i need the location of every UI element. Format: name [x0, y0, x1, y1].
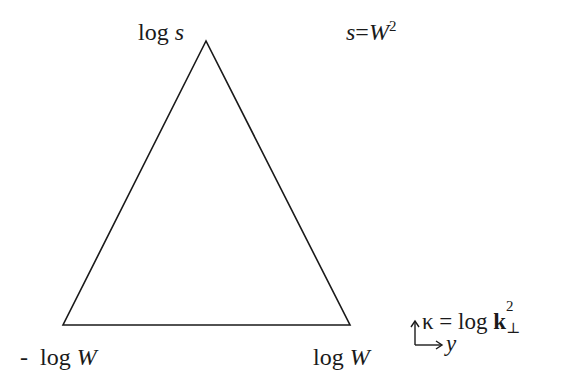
- kappa-axis-label: κ = log k2⊥: [422, 310, 518, 333]
- log-text: log: [313, 344, 344, 370]
- y-axis-label: y: [446, 332, 456, 355]
- log-text: log: [40, 344, 71, 370]
- k-vector: k: [493, 309, 506, 334]
- k-perp-subscript: ⊥: [506, 321, 520, 336]
- condition-exponent: 2: [389, 18, 397, 34]
- kappa-symbol: κ: [422, 309, 434, 334]
- base-right-label: log W: [313, 345, 370, 369]
- condition-rhs: W: [369, 19, 389, 45]
- phase-space-triangle: [63, 41, 350, 325]
- log-text: log: [138, 19, 169, 45]
- k-exponent: 2: [506, 299, 514, 314]
- minus-sign: -: [20, 344, 34, 370]
- condition-lhs: s: [346, 19, 355, 45]
- log-text: log: [458, 309, 493, 334]
- base-left-label: - log W: [20, 345, 97, 369]
- base-left-variable: W: [77, 344, 97, 370]
- condition-eq: =: [355, 19, 369, 45]
- apex-label: log s: [138, 20, 184, 44]
- apex-condition-label: s=W2: [346, 20, 396, 44]
- k-scripts: 2⊥: [506, 319, 518, 329]
- base-right-variable: W: [350, 344, 370, 370]
- apex-variable: s: [175, 19, 184, 45]
